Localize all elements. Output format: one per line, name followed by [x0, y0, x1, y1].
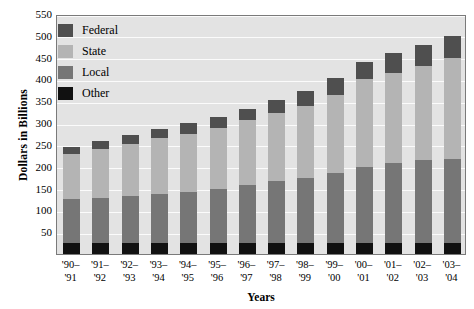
x-axis-tick-label-line: '97	[232, 271, 261, 284]
x-axis-tick-label-line: '95–	[202, 258, 231, 271]
y-axis-tick-label: 150	[18, 184, 52, 195]
bar-segment-other	[268, 243, 285, 254]
bar	[151, 129, 168, 254]
x-axis-tick-label-line: '93	[115, 271, 144, 284]
bar-segment-local	[180, 192, 197, 243]
bar-segment-state	[151, 138, 168, 193]
bar-segment-local	[444, 159, 461, 243]
x-axis-tick-label-line: '90–	[56, 258, 85, 271]
x-axis-tick-label-line: '03	[407, 271, 436, 284]
bar-segment-local	[415, 160, 432, 243]
bar	[385, 53, 402, 254]
x-axis-tick-label-line: '95	[173, 271, 202, 284]
y-axis-tick-label: 350	[18, 96, 52, 107]
bar-segment-state	[415, 66, 432, 161]
x-axis-tick-label-line: '04	[437, 271, 466, 284]
x-axis-tick-label: '02–'03	[407, 258, 436, 284]
bar-segment-state	[327, 95, 344, 174]
bar-segment-state	[180, 134, 197, 192]
bar-segment-federal	[327, 78, 344, 95]
x-axis-tick-label-line: '97–	[261, 258, 290, 271]
bar-segment-local	[385, 163, 402, 243]
x-axis-tick-label: '93–'94	[144, 258, 173, 284]
x-axis-tick-label-line: '91	[56, 271, 85, 284]
x-axis-tick-label: '01–'02	[378, 258, 407, 284]
bar	[444, 36, 461, 254]
x-axis-title: Years	[56, 291, 466, 303]
x-axis-tick-label: '98–'99	[290, 258, 319, 284]
bar-segment-local	[327, 173, 344, 243]
bar-segment-state	[210, 128, 227, 189]
y-axis-tick-label: 250	[18, 140, 52, 151]
x-axis-tick-label: '94–'95	[173, 258, 202, 284]
legend-label: Other	[82, 87, 109, 100]
legend-item: Other	[58, 83, 118, 104]
bar-segment-local	[151, 194, 168, 243]
y-axis-tick-label: 550	[18, 9, 52, 20]
x-axis-tick-label: '96–'97	[232, 258, 261, 284]
bar	[210, 117, 227, 254]
bar-segment-other	[385, 243, 402, 254]
x-axis-tick-label-line: '98	[261, 271, 290, 284]
bar-segment-other	[180, 243, 197, 254]
bar-segment-state	[92, 149, 109, 198]
bar-segment-state	[444, 58, 461, 159]
x-axis-tick-label-line: '99	[290, 271, 319, 284]
legend-swatch-icon	[58, 66, 73, 79]
bar-segment-local	[122, 196, 139, 243]
bar-segment-federal	[210, 117, 227, 128]
bar-segment-local	[92, 198, 109, 243]
x-axis-tick-label-line: '01–	[378, 258, 407, 271]
bar-segment-other	[122, 243, 139, 254]
bar-segment-federal	[268, 100, 285, 113]
y-axis-tick-label: 500	[18, 31, 52, 42]
bar-segment-other	[297, 243, 314, 254]
bar-segment-federal	[385, 53, 402, 73]
bar	[122, 135, 139, 254]
bar-segment-local	[356, 167, 373, 243]
bar-segment-other	[92, 243, 109, 254]
bar	[268, 100, 285, 254]
bar-segment-local	[239, 185, 256, 243]
x-axis-tick-label: '99–'00	[320, 258, 349, 284]
bar	[63, 147, 80, 254]
y-axis-tick-label: 450	[18, 53, 52, 64]
x-axis-tick-label: '00–'01	[349, 258, 378, 284]
chart-legend: FederalStateLocalOther	[58, 20, 118, 104]
x-axis-tick-label-line: '00–	[349, 258, 378, 271]
legend-label: Federal	[82, 24, 118, 37]
y-axis-tick-labels: 50100150200250300350400450500550	[18, 0, 52, 309]
bar-segment-federal	[63, 147, 80, 154]
x-axis-tick-label-line: '03–	[437, 258, 466, 271]
y-axis-tick-label: 50	[18, 227, 52, 238]
bar	[415, 45, 432, 254]
x-axis-tick-label: '91–'92	[85, 258, 114, 284]
bar-segment-other	[444, 243, 461, 254]
bar-segment-other	[63, 243, 80, 254]
bar	[239, 109, 256, 254]
bar-segment-federal	[444, 36, 461, 58]
bar	[92, 141, 109, 254]
bar	[180, 123, 197, 254]
bar-segment-local	[297, 178, 314, 243]
bar-segment-federal	[239, 109, 256, 121]
x-axis-tick-label-line: '96–	[232, 258, 261, 271]
x-axis-tick-label-line: '99–	[320, 258, 349, 271]
legend-label: Local	[82, 66, 109, 79]
bar-segment-other	[210, 243, 227, 254]
x-axis-tick-label-line: '98–	[290, 258, 319, 271]
x-axis-tick-label: '90–'91	[56, 258, 85, 284]
x-axis-tick-label-line: '96	[202, 271, 231, 284]
x-axis-tick-label-line: '92	[85, 271, 114, 284]
x-axis-tick-label-line: '02–	[407, 258, 436, 271]
bar-segment-state	[385, 73, 402, 163]
bar-segment-other	[151, 243, 168, 254]
bar-segment-local	[63, 199, 80, 243]
bars-layer	[57, 16, 465, 254]
y-axis-tick-label: 400	[18, 74, 52, 85]
bar	[327, 78, 344, 254]
y-axis-tick-label: 200	[18, 162, 52, 173]
legend-item: State	[58, 41, 118, 62]
x-axis-tick-label-line: '02	[378, 271, 407, 284]
y-axis-tick-label: 100	[18, 205, 52, 216]
